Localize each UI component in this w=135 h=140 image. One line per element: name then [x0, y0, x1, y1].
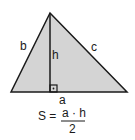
formula-lhs: S =: [38, 109, 56, 123]
side-b-label: b: [20, 39, 27, 53]
triangle-diagram: b c h a S = a · h 2: [0, 0, 135, 140]
triangle-shape: [11, 13, 127, 92]
formula-numerator: a · h: [62, 106, 86, 120]
right-angle-dot: [53, 88, 55, 90]
base-a-label: a: [59, 93, 66, 107]
formula-denominator: 2: [69, 122, 76, 136]
side-c-label: c: [91, 40, 97, 54]
height-h-label: h: [52, 48, 59, 62]
